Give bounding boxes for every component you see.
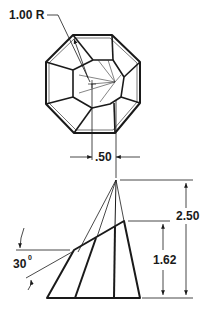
top-view <box>46 35 140 178</box>
radius-label: 1.00 R <box>9 8 45 22</box>
construction-rays <box>79 60 121 102</box>
offset-label: .50 <box>95 150 112 164</box>
cut-height-label: 1.62 <box>153 253 177 267</box>
total-height-label: 2.50 <box>176 209 200 223</box>
degree-symbol: 0 <box>28 254 32 261</box>
side-view <box>47 180 140 298</box>
offset-dimension: .50 <box>70 150 140 164</box>
total-height-dimension <box>120 180 193 298</box>
technical-drawing: 1.00 R .50 30 0 2.50 <box>0 0 220 314</box>
angle-label: 30 <box>13 257 27 271</box>
cut-section <box>47 221 140 298</box>
radius-callout: 1.00 R <box>9 8 90 82</box>
